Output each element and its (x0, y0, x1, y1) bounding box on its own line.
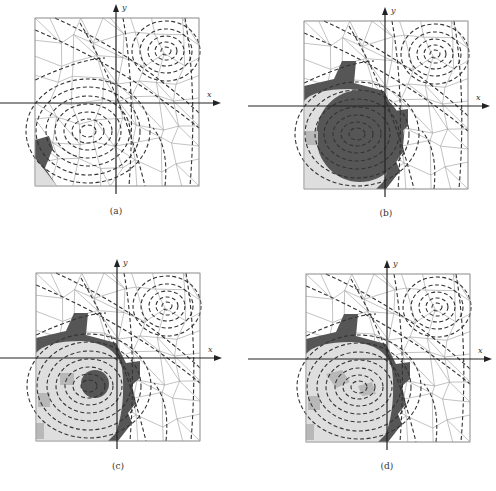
shaded-region-core (316, 90, 404, 182)
y-axis-label: y (392, 259, 398, 268)
y-axis-label: y (122, 258, 128, 267)
y-axis-arrow-icon (113, 4, 119, 12)
x-axis-arrow-icon (214, 355, 222, 361)
panel-d-plot: xy (248, 245, 496, 491)
panel-d: xy (d) (248, 245, 496, 490)
y-axis-label: y (390, 6, 396, 15)
panel-a: xy (a) (0, 0, 248, 245)
panel-b: xy (b) (248, 0, 496, 245)
x-axis-label: x (476, 93, 481, 102)
panel-b-caption: (b) (366, 208, 406, 218)
y-axis-arrow-icon (384, 260, 390, 268)
panel-c-caption: (c) (98, 461, 138, 471)
panel-a-caption: (a) (96, 206, 136, 216)
mesh (35, 18, 199, 186)
x-axis-label: x (207, 90, 212, 99)
x-axis-arrow-icon (213, 100, 221, 106)
panel-c: xy (c) (0, 245, 248, 490)
x-axis-label: x (478, 346, 483, 355)
panel-d-caption: (d) (367, 461, 407, 471)
axes: xy (0, 3, 221, 194)
panel-c-plot: xy (0, 245, 248, 491)
shaded-cell-mid (36, 423, 44, 439)
x-axis-label: x (208, 345, 213, 354)
shaded-cell-mid (306, 424, 314, 440)
y-axis-arrow-icon (114, 259, 120, 267)
y-axis-label: y (121, 3, 127, 12)
x-axis-arrow-icon (484, 356, 492, 362)
shaded-cell-mid (308, 396, 320, 410)
x-axis-arrow-icon (482, 103, 490, 109)
y-axis-arrow-icon (382, 7, 388, 15)
